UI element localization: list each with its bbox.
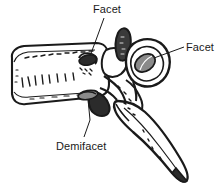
label-facet-superior: Facet <box>93 3 121 15</box>
vertebra-drawing <box>0 0 218 195</box>
anatomical-figure: Facet Facet Demifacet <box>0 0 218 195</box>
transverse-process <box>126 39 170 86</box>
label-facet-transverse: Facet <box>186 41 214 53</box>
label-demifacet: Demifacet <box>56 140 106 152</box>
